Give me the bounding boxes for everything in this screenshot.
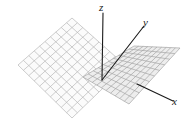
- axis-label-z: z: [99, 2, 103, 13]
- plane-diagram-svg: [0, 0, 193, 132]
- axis-label-x: x: [172, 96, 177, 107]
- axis-line-x: [137, 84, 173, 101]
- axis-label-y: y: [143, 17, 148, 28]
- figure-canvas: z y x: [0, 0, 193, 132]
